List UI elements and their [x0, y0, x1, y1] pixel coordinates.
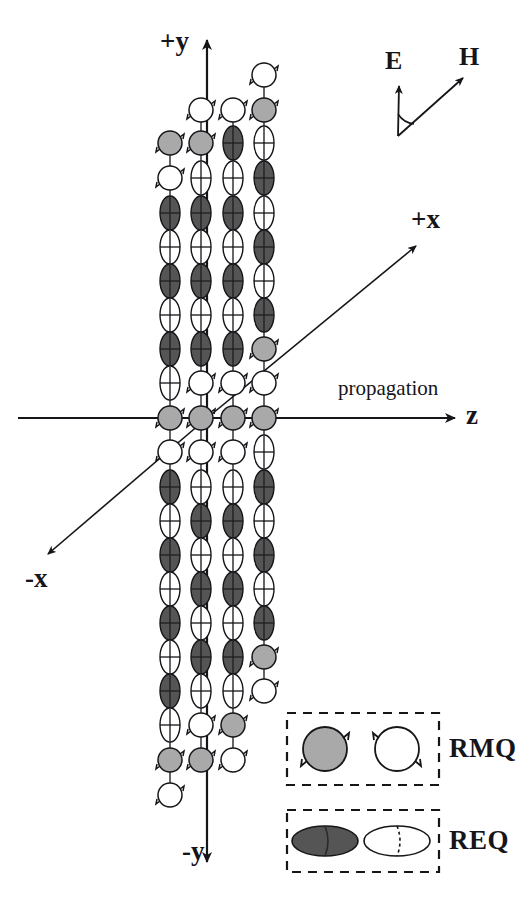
quadrupole-REQ-open: [160, 640, 180, 674]
quadrupole-REQ-dark: [191, 504, 211, 538]
quadrupole-REQ-dark: [223, 332, 243, 366]
quadrupole-REQ-open: [160, 366, 180, 400]
quadrupole-REQ-dark: [223, 504, 243, 538]
axis-label-y-positive: +y: [160, 28, 189, 55]
quadrupole-REQ-open: [160, 298, 180, 332]
quadrupole-REQ-open: [254, 435, 274, 469]
quadrupole-RMQ-gray: [250, 645, 278, 669]
axis-label-z: z: [466, 402, 478, 429]
legend-symbol-rmq-open: [373, 727, 421, 771]
quadrupole-REQ-open: [254, 196, 274, 230]
quadrupole-RMQ-gray: [219, 406, 247, 430]
axis-label-x-negative: -x: [25, 565, 48, 592]
quadrupole-REQ-open: [191, 230, 211, 264]
quadrupole-REQ-dark: [191, 640, 211, 674]
vector-label-h: H: [459, 44, 479, 70]
quadrupole-REQ-open: [223, 606, 243, 640]
quadrupole-RMQ-gray: [250, 406, 278, 430]
quadrupole-REQ-open: [160, 708, 180, 742]
quadrupole-RMQ-open: [156, 783, 184, 807]
axis-label-y-negative: -y: [182, 838, 205, 865]
quadrupole-RMQ-gray: [250, 337, 278, 361]
quadrupole-REQ-open: [223, 538, 243, 572]
quadrupole-RMQ-gray: [187, 131, 215, 155]
quadrupole-RMQ-open: [187, 98, 215, 122]
quadrupole-RMQ-open: [219, 440, 247, 464]
quadrupole-RMQ-open: [250, 63, 278, 87]
quadrupole-REQ-dark: [223, 640, 243, 674]
legend-label-req: REQ: [449, 827, 509, 854]
quadrupole-REQ-open: [191, 674, 211, 708]
quadrupole-RMQ-open: [187, 713, 215, 737]
quadrupole-RMQ-open: [219, 98, 247, 122]
quadrupole-REQ-dark: [223, 196, 243, 230]
quadrupole-REQ-dark: [160, 606, 180, 640]
quadrupole-REQ-dark: [191, 572, 211, 606]
quadrupole-REQ-open: [223, 674, 243, 708]
quadrupole-REQ-dark: [254, 161, 274, 195]
quadrupole-REQ-open: [160, 504, 180, 538]
quadrupole-REQ-open: [254, 504, 274, 538]
quadrupole-column: [187, 98, 215, 772]
quadrupole-RMQ-open: [219, 371, 247, 395]
quadrupole-REQ-dark: [223, 264, 243, 298]
quadrupole-REQ-dark: [223, 572, 243, 606]
quadrupole-REQ-open: [254, 126, 274, 160]
diagram-svg: [0, 0, 530, 914]
quadrupole-REQ-dark: [223, 126, 243, 160]
quadrupole-RMQ-open: [250, 371, 278, 395]
legend-box-req: [287, 810, 439, 872]
figure-canvas: +y -y +x -x z propagation E H RMQ REQ: [0, 0, 530, 914]
quadrupole-REQ-open: [191, 161, 211, 195]
legend-label-rmq: RMQ: [449, 735, 516, 762]
quadrupole-REQ-open: [191, 538, 211, 572]
quadrupole-REQ-dark: [191, 332, 211, 366]
quadrupole-RMQ-open: [187, 371, 215, 395]
quadrupole-REQ-dark: [191, 264, 211, 298]
quadrupole-RMQ-gray: [219, 713, 247, 737]
quadrupole-column: [156, 131, 184, 807]
quadrupole-REQ-dark: [254, 606, 274, 640]
quadrupole-REQ-open: [160, 230, 180, 264]
quadrupole-RMQ-gray: [187, 406, 215, 430]
quadrupole-REQ-open: [191, 470, 211, 504]
legend-symbol-req-open: [364, 826, 430, 856]
quadrupole-RMQ-gray: [156, 748, 184, 772]
quadrupole-column: [250, 63, 278, 703]
quadrupole-REQ-open: [191, 298, 211, 332]
quadrupole-RMQ-gray: [156, 131, 184, 155]
quadrupole-RMQ-open: [187, 440, 215, 464]
vector-label-e: E: [385, 48, 402, 74]
legend-box-rmq: [287, 713, 439, 785]
quadrupole-REQ-dark: [254, 538, 274, 572]
quadrupole-REQ-open: [160, 572, 180, 606]
quadrupole-REQ-dark: [254, 230, 274, 264]
field-vector-indicator: [398, 78, 463, 136]
quadrupole-RMQ-open: [156, 440, 184, 464]
quadrupole-REQ-open: [191, 606, 211, 640]
quadrupole-RMQ-gray: [187, 748, 215, 772]
legend-symbol-rmq-filled: [301, 727, 349, 771]
legend-symbol-req-filled: [292, 826, 358, 856]
quadrupole-REQ-dark: [160, 196, 180, 230]
quadrupole-RMQ-open: [250, 679, 278, 703]
quadrupole-REQ-dark: [160, 332, 180, 366]
quadrupole-chain-group: [156, 63, 278, 807]
quadrupole-REQ-open: [223, 470, 243, 504]
propagation-label: propagation: [338, 378, 438, 399]
quadrupole-REQ-dark: [254, 298, 274, 332]
quadrupole-RMQ-open: [219, 748, 247, 772]
quadrupole-REQ-dark: [160, 538, 180, 572]
quadrupole-REQ-open: [254, 572, 274, 606]
quadrupole-REQ-open: [254, 264, 274, 298]
quadrupole-RMQ-open: [156, 166, 184, 190]
quadrupole-column: [219, 98, 247, 772]
quadrupole-REQ-dark: [160, 264, 180, 298]
quadrupole-REQ-dark: [160, 470, 180, 504]
axis-label-x-positive: +x: [411, 206, 440, 233]
quadrupole-RMQ-gray: [250, 98, 278, 122]
quadrupole-REQ-dark: [160, 674, 180, 708]
quadrupole-REQ-open: [223, 298, 243, 332]
quadrupole-REQ-open: [223, 230, 243, 264]
quadrupole-RMQ-gray: [156, 406, 184, 430]
